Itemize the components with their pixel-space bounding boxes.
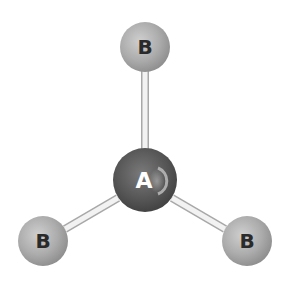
atom-label: B — [239, 229, 254, 253]
atom-b-top: B — [120, 22, 170, 72]
molecule-diagram: B B B A — [0, 0, 289, 290]
atom-label: B — [137, 35, 152, 59]
atom-b-bottom-left: B — [18, 216, 68, 266]
atom-b-bottom-right: B — [222, 216, 272, 266]
atom-label: A — [135, 168, 152, 193]
atom-a-central: A — [113, 148, 177, 212]
atom-label: B — [35, 229, 50, 253]
